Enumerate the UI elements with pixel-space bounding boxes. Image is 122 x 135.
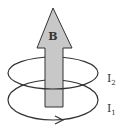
loop-label-i2: I2 — [107, 72, 116, 87]
magnetic-field-diagram: B I2 I1 — [0, 0, 122, 135]
loop-label-i1: I1 — [107, 102, 116, 117]
field-label: B — [48, 30, 57, 43]
